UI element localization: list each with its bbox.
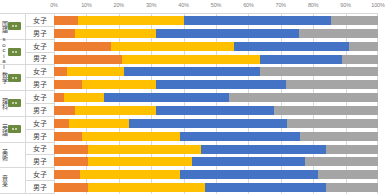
sex-label: 女子 [26, 65, 54, 78]
bar-segment [54, 157, 88, 166]
bar-segment [54, 106, 75, 115]
group-label-block: 理科女子男子 [0, 91, 54, 117]
bar-row [54, 67, 378, 76]
x-tick-label: 80% [308, 2, 319, 8]
bar-segment [88, 157, 192, 166]
bar-row [54, 170, 378, 179]
bar-segment [54, 145, 88, 154]
bar-segment [104, 93, 229, 102]
group-name-label: 音楽 [1, 175, 7, 186]
sex-label-cells: 女子男子 [26, 65, 54, 90]
bar-segment [201, 145, 326, 154]
group-label-block: 美術女子男子 [0, 143, 54, 169]
bar-row [54, 132, 378, 141]
bar-segment [156, 80, 286, 89]
sex-label: 女子 [26, 168, 54, 181]
bar-segment [229, 93, 378, 102]
bar-segment [205, 183, 327, 192]
bar-segment [69, 119, 129, 128]
bar-segment [82, 80, 157, 89]
bar-row [54, 42, 378, 51]
bar-segment [80, 170, 180, 179]
bar-segment [54, 29, 75, 38]
bar-segment [122, 55, 260, 64]
bar-segment [156, 29, 299, 38]
group-tag: 数学 [0, 65, 26, 90]
sex-label: 男子 [26, 155, 54, 167]
group-badge-icon [8, 48, 21, 56]
bar-segment [180, 132, 300, 141]
bar-row [54, 16, 378, 25]
x-tick-label: 50% [211, 2, 222, 8]
bar-segment [54, 80, 82, 89]
x-tick-label: 60% [243, 2, 254, 8]
x-tick-label: 70% [276, 2, 287, 8]
bar-segment [111, 42, 234, 51]
bar-segment [286, 80, 378, 89]
bar-segment [75, 29, 156, 38]
bar-segment [184, 16, 331, 25]
group-label-block: 国語女子男子 [0, 14, 54, 40]
sex-label-cells: 女子男子 [26, 168, 54, 193]
bar-row [54, 119, 378, 128]
bar-segment [54, 93, 64, 102]
group-tag: 理科 [0, 91, 26, 116]
bar-segment [67, 67, 124, 76]
plot-area [54, 13, 378, 194]
sex-label: 女子 [26, 143, 54, 156]
bar-segment [180, 170, 318, 179]
bar-segment [78, 16, 183, 25]
stacked-bar-chart: 0%10%20%30%40%50%60%70%80%90%100% 国語女子男子… [0, 0, 386, 195]
group-label-block: 英語女子男子 [0, 117, 54, 143]
sex-label-cells: 女子男子 [26, 91, 54, 116]
sex-label: 女子 [26, 91, 54, 104]
bar-row [54, 55, 378, 64]
bar-segment [88, 183, 205, 192]
x-tick-label: 90% [340, 2, 351, 8]
bar-segment [299, 29, 378, 38]
bar-row [54, 93, 378, 102]
bar-row [54, 80, 378, 89]
bar-segment [54, 132, 82, 141]
x-tick-label: 100% [371, 2, 384, 8]
group-label-block: social女子男子 [0, 40, 54, 66]
sex-label: 男子 [26, 27, 54, 39]
bar-segment [326, 145, 378, 154]
sex-label-cells: 女子男子 [26, 40, 54, 65]
group-badge-icon [8, 99, 21, 107]
group-name-label: 理科 [1, 98, 7, 109]
x-tick-label: 0% [50, 2, 58, 8]
group-name-label: 数学 [1, 72, 7, 83]
group-name-label: 美術 [1, 149, 7, 160]
x-tick-label: 10% [81, 2, 92, 8]
group-tag: social [0, 40, 26, 65]
bar-row [54, 106, 378, 115]
x-tick-label: 30% [146, 2, 157, 8]
bar-segment [260, 55, 343, 64]
bar-segment [129, 119, 288, 128]
sex-label: 男子 [26, 78, 54, 90]
bar-segment [305, 157, 378, 166]
bar-segment [274, 106, 378, 115]
group-badge-icon [8, 125, 21, 133]
sex-label-cells: 女子男子 [26, 14, 54, 39]
bar-segment [192, 157, 305, 166]
bar-segment [300, 132, 378, 141]
group-name-label: social [1, 36, 7, 69]
bar-row [54, 145, 378, 154]
bar-segment [54, 119, 69, 128]
bar-row [54, 157, 378, 166]
sex-label: 男子 [26, 130, 54, 142]
sex-label: 女子 [26, 40, 54, 53]
bar-segment [54, 183, 88, 192]
group-tag: 音楽 [0, 168, 26, 193]
bar-segment [156, 106, 274, 115]
x-tick-label: 40% [178, 2, 189, 8]
sex-label: 男子 [26, 181, 54, 193]
bar-segment [54, 170, 80, 179]
bar-row [54, 29, 378, 38]
bar-segment [88, 145, 201, 154]
x-axis-tick-labels: 0%10%20%30%40%50%60%70%80%90%100% [54, 0, 378, 13]
sex-label: 男子 [26, 104, 54, 116]
group-name-label: 国語 [1, 21, 7, 32]
